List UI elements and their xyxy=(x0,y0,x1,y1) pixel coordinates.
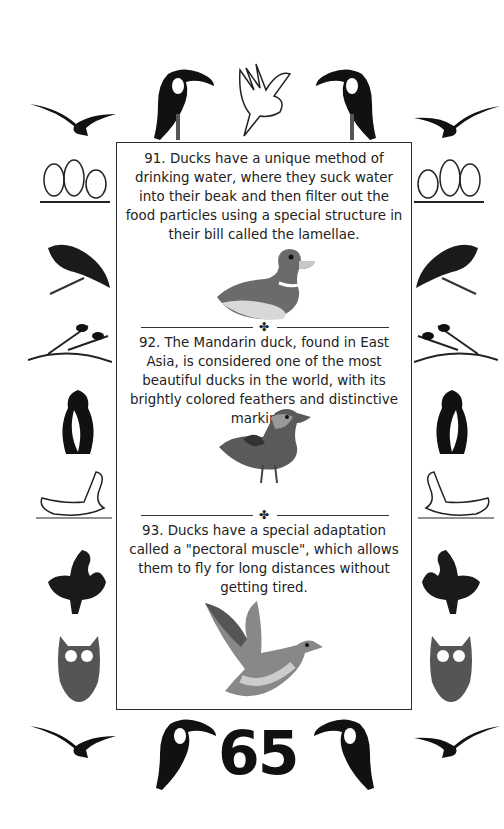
seagull-icon xyxy=(412,102,502,142)
duck-icon-illustration xyxy=(213,247,317,323)
cockatoo-icon xyxy=(234,60,296,140)
rooster-icon xyxy=(420,546,486,616)
toucan-icon xyxy=(312,64,392,144)
seagull-icon xyxy=(412,722,502,762)
toucan-icon xyxy=(138,64,218,144)
seagull-icon xyxy=(28,722,118,762)
flying-mallard-illustration xyxy=(201,599,325,707)
toucan-icon xyxy=(140,714,220,794)
ornamental-divider: ✤ xyxy=(141,323,389,333)
swan-icon xyxy=(416,468,496,524)
branch-birds-icon xyxy=(28,316,112,376)
swan-icon xyxy=(34,468,114,524)
parrot-icon xyxy=(412,238,482,298)
parrot-icon xyxy=(44,238,114,298)
seagull-icon xyxy=(28,100,118,140)
penguin-icon xyxy=(430,388,474,462)
fact-93: 93. Ducks have a special adaptation call… xyxy=(117,521,411,597)
page-number: 65 xyxy=(218,718,298,788)
toucan-icon xyxy=(310,714,390,794)
owl-icon xyxy=(54,632,104,706)
penguin-icon xyxy=(56,388,100,462)
branch-birds-icon xyxy=(414,316,498,376)
owl-icon xyxy=(426,632,476,706)
ornamental-divider: ✤ xyxy=(141,511,389,521)
fact-91: 91. Ducks have a unique method of drinki… xyxy=(117,149,411,244)
facts-panel: 91. Ducks have a unique method of drinki… xyxy=(116,142,412,710)
rooster-icon xyxy=(42,546,108,616)
lovebirds-icon xyxy=(414,152,484,212)
mandarin-duck-illustration xyxy=(213,403,317,489)
lovebirds-icon xyxy=(40,152,110,212)
